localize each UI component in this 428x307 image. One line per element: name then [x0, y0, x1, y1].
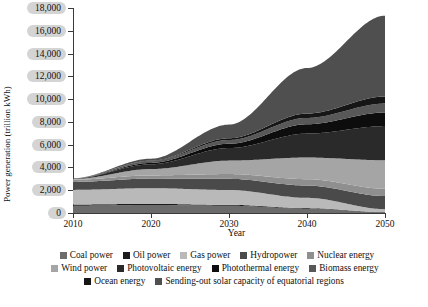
- legend-item-ocean-energy[interactable]: Ocean energy: [84, 275, 145, 288]
- y-axis-tick-label-slot: 14,000: [0, 48, 66, 60]
- y-axis-tick-label-slot: 16,000: [0, 25, 66, 37]
- legend-label: Gas power: [190, 249, 230, 262]
- y-axis-tick-label: 2,000: [32, 184, 66, 196]
- y-axis-tick-label-slot: 12,000: [0, 70, 66, 82]
- y-axis-tick-label-slot: 4,000: [0, 161, 66, 173]
- figure: Power generation (trillion kWh) 02,0004,…: [0, 0, 428, 307]
- y-axis-tick-label-slot: 8,000: [0, 116, 66, 128]
- legend-label: Hydropower: [250, 249, 297, 262]
- x-axis-tick: [307, 213, 308, 218]
- y-axis-tick-label-slot: 6,000: [0, 139, 66, 151]
- legend-swatch-coal-power: [60, 252, 67, 259]
- y-axis-tick-label: 0: [48, 207, 66, 219]
- legend-label: Sending-out solar capacity of equatorial…: [165, 275, 343, 288]
- legend-label: Coal power: [70, 249, 113, 262]
- legend-item-oil-power[interactable]: Oil power: [123, 249, 170, 262]
- legend-row: Coal powerOil powerGas powerHydropowerNu…: [0, 249, 428, 262]
- legend-item-hydropower[interactable]: Hydropower: [240, 249, 297, 262]
- y-axis-tick-label: 6,000: [32, 139, 66, 151]
- legend-swatch-wind-power: [51, 265, 58, 272]
- x-axis-tick: [73, 213, 74, 218]
- legend-swatch-photothermal-energy: [212, 265, 219, 272]
- x-axis-title: Year: [0, 228, 428, 238]
- x-axis-tick: [385, 213, 386, 218]
- y-axis-tick-label: 12,000: [27, 70, 66, 82]
- legend-swatch-sending-out-solar-capacity-of-equatorial-regions: [155, 278, 162, 285]
- y-axis-tick-label-slot: 10,000: [0, 93, 66, 105]
- x-axis-title-text: Year: [228, 228, 246, 238]
- legend-item-wind-power[interactable]: Wind power: [51, 262, 107, 275]
- legend-swatch-gas-power: [180, 252, 187, 259]
- legend-item-photothermal-energy[interactable]: Photothermal energy: [212, 262, 300, 275]
- legend-label: Photothermal energy: [222, 262, 300, 275]
- legend-swatch-hydropower: [240, 252, 247, 259]
- y-axis-tick-label: 18,000: [27, 2, 66, 14]
- legend-row: Ocean energySending-out solar capacity o…: [0, 275, 428, 288]
- legend-label: Biomass energyand others: [319, 262, 378, 275]
- chart-legend: Coal powerOil powerGas powerHydropowerNu…: [0, 249, 428, 288]
- x-axis-tick: [151, 213, 152, 218]
- legend-item-nuclear-energy[interactable]: Nuclear energy: [307, 249, 374, 262]
- legend-label: Oil power: [133, 249, 170, 262]
- legend-label: Wind power: [61, 262, 107, 275]
- y-axis-tick-label: 16,000: [27, 25, 66, 37]
- legend-row: Wind powerPhotovoltaic energyPhototherma…: [0, 262, 428, 275]
- stacked-area-plot: [73, 8, 385, 213]
- y-axis-tick-label-slot: 18,000: [0, 2, 66, 14]
- legend-swatch-photovoltaic-energy: [117, 265, 124, 272]
- x-axis-tick: [229, 213, 230, 218]
- legend-swatch-oil-power: [123, 252, 130, 259]
- y-axis-tick-label: 14,000: [27, 48, 66, 60]
- y-axis-tick-label: 8,000: [32, 116, 66, 128]
- legend-item-photovoltaic-energy[interactable]: Photovoltaic energy: [117, 262, 201, 275]
- legend-swatch-nuclear-energy: [307, 252, 314, 259]
- legend-item-sending-out-solar-capacity-of-equatorial-regions[interactable]: Sending-out solar capacity of equatorial…: [155, 275, 343, 288]
- y-axis-tick-label-slot: 2,000: [0, 184, 66, 196]
- y-axis-tick-label-slot: 0: [0, 207, 66, 219]
- legend-label: Nuclear energy: [317, 249, 374, 262]
- legend-label: Ocean energy: [94, 275, 145, 288]
- legend-swatch-ocean-energy: [84, 278, 91, 285]
- y-axis-tick-label: 10,000: [27, 93, 66, 105]
- legend-item-biomass-energy[interactable]: Biomass energyand others: [309, 262, 378, 275]
- legend-swatch-biomass-energy: [309, 265, 316, 272]
- chart-area: Power generation (trillion kWh) 02,0004,…: [0, 0, 428, 248]
- legend-item-coal-power[interactable]: Coal power: [60, 249, 113, 262]
- legend-label: Photovoltaic energy: [127, 262, 201, 275]
- y-axis-tick-label: 4,000: [32, 161, 66, 173]
- legend-item-gas-power[interactable]: Gas power: [180, 249, 230, 262]
